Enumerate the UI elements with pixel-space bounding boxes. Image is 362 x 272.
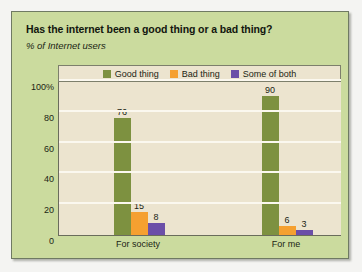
legend-item[interactable]: Bad thing — [170, 69, 220, 79]
bars-layer: 761589063 — [59, 82, 341, 235]
legend-swatch-icon — [231, 70, 239, 78]
legend-label: Good thing — [115, 69, 159, 79]
x-axis-category-label: For me — [272, 239, 301, 249]
x-axis-category-label: For society — [116, 239, 160, 249]
gridline — [59, 171, 341, 173]
bar[interactable]: 76 — [114, 118, 131, 235]
legend-swatch-icon — [170, 70, 178, 78]
bar[interactable]: 90 — [262, 96, 279, 235]
bar-value-label: 3 — [301, 219, 306, 229]
plot-area-wrapper: 761589063 020406080100% For societyFor m… — [58, 82, 341, 236]
gridline — [59, 141, 341, 143]
gridline — [59, 202, 341, 204]
legend-swatch-icon — [103, 70, 111, 78]
bar-value-label: 76 — [117, 107, 127, 117]
legend-label: Some of both — [243, 69, 297, 79]
legend-item[interactable]: Good thing — [103, 69, 159, 79]
bar[interactable]: 8 — [148, 223, 165, 235]
chart-panel: Has the internet been a good thing or a … — [11, 11, 349, 259]
gridline — [59, 110, 341, 112]
bar[interactable]: 6 — [279, 226, 296, 235]
chart-figure: Has the internet been a good thing or a … — [0, 0, 362, 272]
bar[interactable]: 15 — [131, 212, 148, 235]
chart-subtitle: % of Internet users — [26, 40, 106, 51]
gridline — [59, 79, 341, 81]
bar-value-label: 8 — [153, 212, 158, 222]
plot-area: 761589063 020406080100% — [58, 82, 341, 236]
bar-value-label: 6 — [284, 215, 289, 225]
bar[interactable]: 3 — [296, 230, 313, 235]
chart-title: Has the internet been a good thing or a … — [26, 23, 336, 35]
bar-value-label: 90 — [265, 85, 275, 95]
legend-item[interactable]: Some of both — [231, 69, 297, 79]
legend-label: Bad thing — [182, 69, 220, 79]
